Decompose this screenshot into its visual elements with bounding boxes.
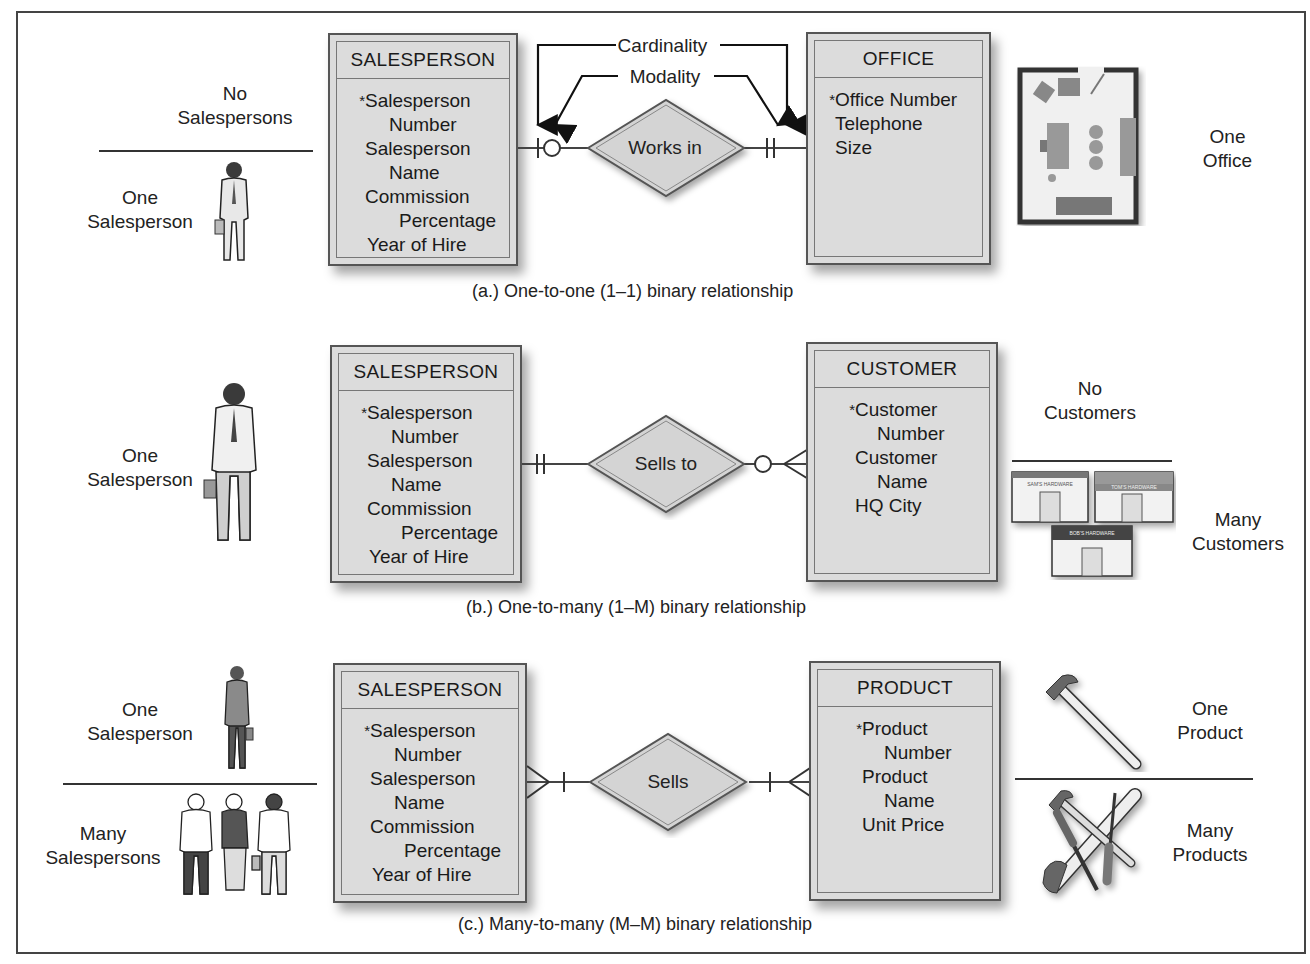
- attribute: Salesperson: [337, 137, 509, 161]
- entity-title: SALESPERSON: [342, 672, 518, 709]
- entity-customer: CUSTOMER *Customer Number Customer Name …: [806, 342, 998, 582]
- attribute: Office Number: [835, 89, 957, 110]
- store-sign: BOB'S HARDWARE: [1069, 530, 1115, 536]
- relationship-sells-to: Sells to: [591, 452, 741, 476]
- attribute: Unit Price: [818, 813, 992, 837]
- saleswoman-figure-icon: [218, 664, 258, 776]
- label-many-salespersons: ManySalespersons: [28, 822, 178, 870]
- hammer-icon: [1040, 672, 1150, 772]
- attribute: Salesperson: [370, 720, 476, 741]
- label-text: NoCustomers: [1030, 377, 1150, 425]
- attribute: Salesperson: [339, 449, 513, 473]
- salesperson-figure-icon: [210, 160, 260, 270]
- caption-one-to-many: (b.) One-to-many (1–M) binary relationsh…: [466, 597, 806, 618]
- attribute: Name: [337, 161, 509, 185]
- divider: [63, 783, 317, 785]
- attribute: Salesperson: [342, 767, 518, 791]
- attribute: Number: [342, 743, 518, 767]
- caption-many-to-many: (c.) Many-to-many (M–M) binary relations…: [458, 914, 812, 935]
- attribute: Commission: [339, 497, 513, 521]
- relationship-sells: Sells: [593, 770, 743, 794]
- entity-attributes: *Product Number Product Name Unit Price: [818, 707, 992, 837]
- attribute: Telephone: [815, 112, 982, 136]
- entity-title: SALESPERSON: [337, 42, 509, 79]
- attribute: HQ City: [815, 494, 989, 518]
- attribute: Size: [815, 136, 982, 160]
- attribute: Salesperson: [365, 90, 471, 111]
- attribute: Number: [337, 113, 509, 137]
- primary-key-marker: *: [845, 398, 855, 422]
- attribute: Year of Hire: [339, 545, 513, 569]
- office-floorplan-icon: [1016, 66, 1146, 226]
- annotation-modality: Modality: [610, 65, 720, 89]
- label-one-salesperson: OneSalesperson: [70, 186, 210, 234]
- entity-attributes: *Salesperson Number Salesperson Name Com…: [342, 709, 518, 887]
- attribute: Percentage: [342, 839, 518, 863]
- attribute: Percentage: [339, 521, 513, 545]
- annotation-cardinality: Cardinality: [600, 34, 725, 58]
- primary-key-marker: *: [852, 717, 862, 741]
- attribute: Product: [862, 718, 927, 739]
- primary-key-marker: *: [825, 88, 835, 112]
- entity-product: PRODUCT *Product Number Product Name Uni…: [809, 661, 1001, 901]
- entity-salesperson: SALESPERSON *Salesperson Number Salesper…: [328, 33, 518, 266]
- store-sign: SAM'S HARDWARE: [1027, 481, 1073, 487]
- entity-attributes: *Salesperson Number Salesperson Name Com…: [339, 391, 513, 569]
- label-one-salesperson: OneSalesperson: [70, 698, 210, 746]
- salespersons-group-icon: [172, 792, 302, 904]
- attribute: Name: [342, 791, 518, 815]
- label-text: NoSalespersons: [150, 82, 320, 130]
- label-text: ManyProducts: [1160, 819, 1260, 867]
- entity-salesperson: SALESPERSON *Salesperson Number Salesper…: [333, 663, 527, 903]
- entity-title: PRODUCT: [818, 670, 992, 707]
- divider: [1012, 460, 1172, 462]
- primary-key-marker: *: [357, 401, 367, 425]
- label-text: OneSalesperson: [70, 698, 210, 746]
- label-text: OneSalesperson: [70, 186, 210, 234]
- label-many-customers: ManyCustomers: [1182, 508, 1294, 556]
- primary-key-marker: *: [355, 89, 365, 113]
- attribute: Percentage: [337, 209, 509, 233]
- attribute: Salesperson: [367, 402, 473, 423]
- attribute: Name: [339, 473, 513, 497]
- attribute: Number: [818, 741, 992, 765]
- label-many-products: ManyProducts: [1160, 819, 1260, 867]
- attribute: Number: [815, 422, 989, 446]
- label-text: OneSalesperson: [70, 444, 210, 492]
- attribute: Number: [339, 425, 513, 449]
- tools-icon: [1035, 785, 1165, 905]
- entity-title: CUSTOMER: [815, 351, 989, 388]
- attribute: Commission: [337, 185, 509, 209]
- attribute: Customer: [855, 399, 937, 420]
- label-no-salespersons: NoSalespersons: [150, 82, 320, 130]
- entity-attributes: *Office Number Telephone Size: [815, 78, 982, 160]
- label-one-office: OneOffice: [1190, 125, 1265, 173]
- salesperson-figure-icon: [200, 380, 270, 550]
- label-no-customers: NoCustomers: [1030, 377, 1150, 425]
- attribute: Year of Hire: [337, 233, 509, 257]
- label-one-product: OneProduct: [1160, 697, 1260, 745]
- entity-title: SALESPERSON: [339, 354, 513, 391]
- store-sign: TOM'S HARDWARE: [1111, 484, 1157, 490]
- label-one-salesperson: OneSalesperson: [70, 444, 210, 492]
- attribute: Name: [818, 789, 992, 813]
- label-text: OneOffice: [1190, 125, 1265, 173]
- caption-one-to-one: (a.) One-to-one (1–1) binary relationshi…: [472, 281, 793, 302]
- entity-attributes: *Salesperson Number Salesperson Name Com…: [337, 79, 509, 257]
- primary-key-marker: *: [360, 719, 370, 743]
- attribute: Name: [815, 470, 989, 494]
- divider: [1015, 778, 1253, 780]
- attribute: Commission: [342, 815, 518, 839]
- entity-attributes: *Customer Number Customer Name HQ City: [815, 388, 989, 518]
- hardware-stores-icon: SAM'S HARDWARE TOM'S HARDWARE BOB'S HARD…: [1010, 468, 1176, 580]
- label-text: OneProduct: [1160, 697, 1260, 745]
- attribute: Customer: [815, 446, 989, 470]
- divider: [99, 150, 313, 152]
- entity-salesperson: SALESPERSON *Salesperson Number Salesper…: [330, 345, 522, 583]
- attribute: Product: [818, 765, 992, 789]
- label-text: ManySalespersons: [28, 822, 178, 870]
- entity-title: OFFICE: [815, 41, 982, 78]
- label-text: ManyCustomers: [1182, 508, 1294, 556]
- attribute: Year of Hire: [342, 863, 518, 887]
- entity-office: OFFICE *Office Number Telephone Size: [806, 32, 991, 265]
